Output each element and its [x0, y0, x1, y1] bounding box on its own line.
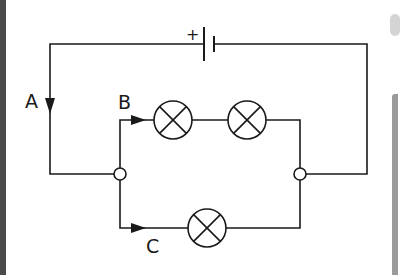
wire-upper-branch: [120, 120, 300, 168]
label-a: A: [25, 90, 38, 112]
label-b: B: [118, 91, 131, 113]
battery-positive-label: +: [186, 25, 199, 44]
lamp-icon-upper-1: [154, 101, 192, 139]
label-c: C: [146, 235, 159, 257]
lamp-icon-upper-2: [228, 101, 266, 139]
battery-icon: [204, 27, 214, 61]
arrow-down-icon-a: [45, 98, 55, 114]
junction-left: [114, 168, 126, 180]
arrow-right-icon-c: [131, 223, 146, 233]
lamp-icon-lower: [188, 209, 226, 247]
arrow-right-icon-b: [131, 115, 146, 125]
junction-right: [294, 168, 306, 180]
